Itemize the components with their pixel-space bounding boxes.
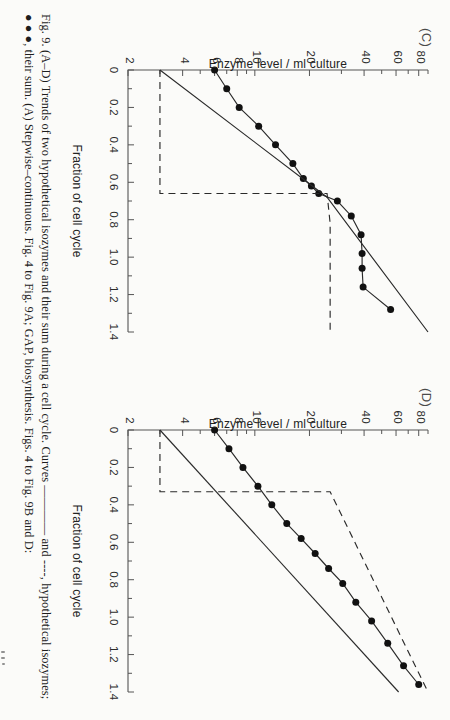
scan-speck [1,657,5,659]
ytick-label: 6 [211,398,223,424]
ytick-label: 40 [360,38,372,64]
ytick-label: 2 [124,38,136,64]
caption-line-2: ● ● ●, their sum. (A) Stepwise–continuou… [20,14,37,714]
figure-caption: Fig. 9. (A–D) Trends of two hypothetical… [20,14,54,714]
ytick-label: 10 [251,38,263,64]
xtick-label: 0.8 [108,563,120,597]
panel-d-ylabel: Enzyme level / ml culture [209,417,347,431]
xtick-label: 0 [108,413,120,447]
xtick-label: 0 [108,53,120,87]
scan-speck [1,651,5,653]
panel-c-plot: Enzyme level / ml culture Fraction of ce… [128,70,428,332]
ytick-label: 20 [305,398,317,424]
panel-c-xlabel: Fraction of cell cycle [70,144,84,257]
xtick-label: 0.2 [108,90,120,124]
xtick-label: 1.0 [108,600,120,634]
ytick-label: 40 [360,398,372,424]
ytick-label: 6 [211,38,223,64]
xtick-label: 1.4 [108,315,120,349]
panel-c-svg [128,70,428,332]
ytick-label: 8 [233,38,245,64]
ytick-label: 60 [392,38,404,64]
xtick-label: 0.4 [108,488,120,522]
scanned-page: (C) Enzyme level / ml culture Fraction o… [0,0,450,720]
ytick-label: 2 [124,398,136,424]
panel-d-svg [128,430,428,692]
xtick-label: 0.2 [108,450,120,484]
ytick-label: 8 [233,398,245,424]
figure-sheet: (C) Enzyme level / ml culture Fraction o… [0,0,450,720]
ytick-label: 4 [179,398,191,424]
panel-c-ylabel: Enzyme level / ml culture [209,57,347,71]
caption-line-1: Fig. 9. (A–D) Trends of two hypothetical… [37,14,54,714]
xtick-label: 0.6 [108,165,120,199]
xtick-label: 1.2 [108,278,120,312]
xtick-label: 1.2 [108,638,120,672]
panel-d: (D) Enzyme level / ml culture Fraction o… [58,360,450,720]
panel-c: (C) Enzyme level / ml culture Fraction o… [58,0,450,360]
ytick-label: 10 [251,398,263,424]
ytick-label: 80 [415,398,427,424]
ytick-label: 60 [392,398,404,424]
xtick-label: 0.4 [108,128,120,162]
scan-speck [2,663,5,665]
xtick-label: 1.4 [108,675,120,709]
ytick-label: 4 [179,38,191,64]
xtick-label: 1.0 [108,240,120,274]
panel-d-xlabel: Fraction of cell cycle [70,504,84,617]
ytick-label: 20 [305,38,317,64]
xtick-label: 0.8 [108,203,120,237]
xtick-label: 0.6 [108,525,120,559]
ytick-label: 80 [415,38,427,64]
panel-d-plot: Enzyme level / ml culture Fraction of ce… [128,430,428,692]
